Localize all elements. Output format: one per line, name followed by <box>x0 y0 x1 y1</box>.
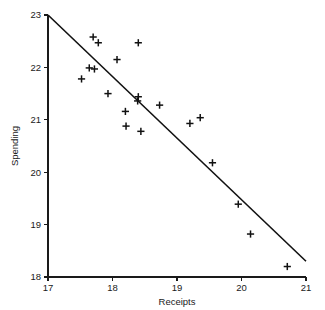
y-axis-title: Spending <box>9 126 20 166</box>
x-tick-label: 19 <box>172 282 183 293</box>
data-point-marker <box>186 120 193 127</box>
data-point-marker <box>209 159 216 166</box>
data-point-marker <box>113 56 120 63</box>
data-point-marker <box>235 201 242 208</box>
x-tick-label: 17 <box>43 282 54 293</box>
data-point-marker <box>197 114 204 121</box>
y-tick-label: 21 <box>30 114 41 125</box>
data-point-marker <box>91 65 98 72</box>
x-tick-label: 20 <box>236 282 247 293</box>
data-point-marker <box>95 39 102 46</box>
data-point-marker <box>137 128 144 135</box>
axis-spine <box>48 15 306 277</box>
y-tick-label: 18 <box>30 271 41 282</box>
data-point-marker <box>90 33 97 40</box>
x-tick-label: 18 <box>107 282 118 293</box>
y-tick-label: 22 <box>30 62 41 73</box>
regression-line <box>48 15 306 261</box>
data-point-marker <box>156 102 163 109</box>
data-point-marker <box>284 263 291 270</box>
data-point-marker <box>122 108 129 115</box>
data-point-marker <box>78 75 85 82</box>
data-point-marker <box>104 90 111 97</box>
data-point-marker <box>135 39 142 46</box>
y-tick-label: 23 <box>30 9 41 20</box>
scatter-plot-figure: 1819202122231718192021ReceiptsSpending <box>0 0 325 310</box>
data-point-marker <box>247 230 254 237</box>
x-tick-label: 21 <box>301 282 312 293</box>
plot-canvas: 1819202122231718192021ReceiptsSpending <box>0 0 325 310</box>
y-tick-label: 19 <box>30 219 41 230</box>
data-point-marker <box>86 64 93 71</box>
x-axis-title: Receipts <box>159 296 196 307</box>
data-point-marker <box>122 122 129 129</box>
y-tick-label: 20 <box>30 167 41 178</box>
